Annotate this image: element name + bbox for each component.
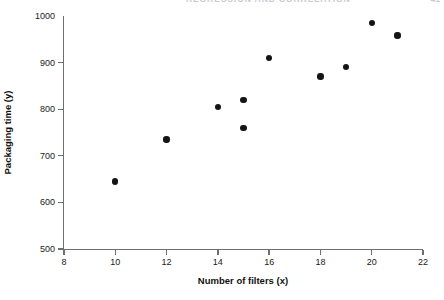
x-tick-mark — [166, 250, 167, 255]
x-tick-mark — [63, 250, 64, 255]
y-tick-label: 700 — [40, 151, 55, 161]
x-tick-mark — [268, 250, 269, 255]
y-tick-label: 600 — [40, 197, 55, 207]
data-point — [112, 178, 118, 184]
x-tick-label: 18 — [315, 257, 325, 267]
y-tick-mark — [58, 62, 63, 63]
x-tick-mark — [422, 250, 423, 255]
y-tick-label: 800 — [40, 104, 55, 114]
y-tick-mark — [58, 155, 63, 156]
x-tick-label: 14 — [213, 257, 223, 267]
data-point — [317, 73, 323, 79]
data-point — [394, 32, 400, 38]
y-tick-mark — [58, 109, 63, 110]
x-tick-label: 12 — [162, 257, 172, 267]
x-tick-label: 10 — [110, 257, 120, 267]
y-tick-label: 1000 — [35, 11, 55, 21]
x-axis-title: Number of filters (x) — [63, 275, 423, 286]
x-tick-mark — [115, 250, 116, 255]
y-tick-label: 500 — [40, 244, 55, 254]
y-tick-mark — [58, 202, 63, 203]
plot-area — [64, 16, 423, 249]
x-tick-label: 16 — [264, 257, 274, 267]
y-axis-title: Packaging time (y) — [2, 16, 16, 249]
y-tick-mark — [58, 248, 63, 249]
y-tick-label: 900 — [40, 58, 55, 68]
data-point — [215, 104, 221, 110]
x-tick-mark — [217, 250, 218, 255]
x-tick-mark — [371, 250, 372, 255]
x-tick-mark — [320, 250, 321, 255]
data-point — [163, 136, 169, 142]
data-point — [240, 97, 246, 103]
data-point — [266, 55, 272, 61]
scatter-plot-figure: 5006007008009001000 810121416182022 Numb… — [0, 0, 444, 300]
x-tick-label: 20 — [367, 257, 377, 267]
data-point — [369, 20, 375, 26]
data-point — [240, 125, 246, 131]
data-point — [343, 64, 349, 70]
x-tick-label: 22 — [418, 257, 428, 267]
x-tick-label: 8 — [61, 257, 66, 267]
